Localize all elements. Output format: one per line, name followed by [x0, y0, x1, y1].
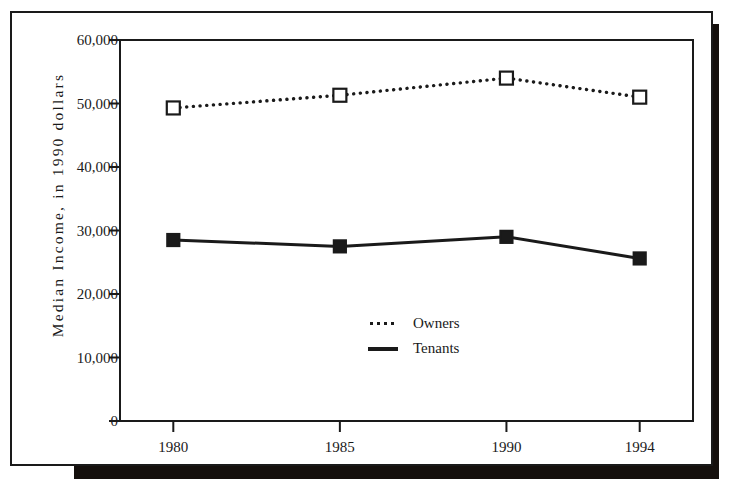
chart-legend: Owners Tenants: [362, 311, 460, 361]
data-point-marker: [500, 72, 513, 85]
solid-line-key-icon: [362, 341, 404, 357]
plot-canvas: [10, 11, 713, 466]
plot-frame: [120, 40, 693, 421]
data-point-marker: [634, 252, 646, 264]
x-tick-label: 1985: [300, 439, 380, 456]
legend-item-owners: Owners: [362, 311, 460, 336]
data-point-marker: [167, 101, 180, 114]
x-tick-label: 1990: [466, 439, 546, 456]
data-point-marker: [167, 234, 179, 246]
y-tick-marks: [109, 40, 120, 421]
plot-border: [120, 40, 693, 421]
legend-label-tenants: Tenants: [413, 340, 459, 357]
chart-figure: Median Income, in 1990 dollars 010,00020…: [10, 11, 713, 466]
x-tick-marks: [173, 421, 639, 432]
x-tick-label: 1994: [600, 439, 680, 456]
series-owners: [167, 72, 646, 115]
x-tick-label: 1980: [133, 439, 213, 456]
data-point-marker: [500, 231, 512, 243]
page-root: Median Income, in 1990 dollars 010,00020…: [0, 0, 742, 496]
legend-item-tenants: Tenants: [362, 336, 460, 361]
series-line: [173, 78, 639, 108]
data-point-marker: [633, 91, 646, 104]
data-point-marker: [334, 240, 346, 252]
series-tenants: [167, 231, 645, 265]
legend-label-owners: Owners: [413, 315, 460, 332]
data-point-marker: [333, 89, 346, 102]
dotted-line-key-icon: [362, 316, 404, 332]
series-line: [173, 237, 639, 259]
